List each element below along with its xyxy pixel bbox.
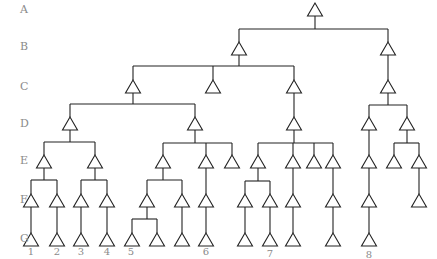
leaf-number-label: 5 bbox=[128, 247, 134, 257]
leaf-number-label: 6 bbox=[203, 247, 209, 257]
triangle-node-icon bbox=[37, 155, 52, 168]
triangle-node-icon bbox=[362, 194, 377, 207]
leaf-number-label: 1 bbox=[28, 247, 34, 257]
triangle-node-icon bbox=[74, 233, 89, 246]
triangle-node-icon bbox=[326, 194, 341, 207]
triangle-node-icon bbox=[263, 194, 278, 207]
level-label: F bbox=[20, 194, 28, 205]
tree-diagram bbox=[0, 0, 437, 259]
triangle-node-icon bbox=[126, 80, 141, 93]
triangle-node-icon bbox=[199, 233, 214, 246]
triangle-node-icon bbox=[225, 155, 240, 168]
triangle-node-icon bbox=[175, 233, 190, 246]
leaf-number-label: 7 bbox=[267, 249, 273, 259]
triangle-node-icon bbox=[387, 155, 402, 168]
triangle-node-icon bbox=[412, 155, 427, 168]
triangle-node-icon bbox=[326, 233, 341, 246]
triangle-node-icon bbox=[199, 155, 214, 168]
leaf-number-label: 2 bbox=[54, 247, 60, 257]
level-label: G bbox=[20, 233, 29, 244]
triangle-node-icon bbox=[251, 155, 266, 168]
triangle-node-icon bbox=[287, 117, 302, 130]
triangle-node-icon bbox=[286, 233, 301, 246]
triangle-node-icon bbox=[88, 155, 103, 168]
triangle-node-icon bbox=[263, 233, 278, 246]
triangle-node-icon bbox=[286, 155, 301, 168]
triangle-node-icon bbox=[125, 233, 140, 246]
triangle-node-icon bbox=[362, 155, 377, 168]
leaf-number-label: 4 bbox=[104, 247, 110, 257]
triangle-node-icon bbox=[150, 233, 165, 246]
triangle-node-icon bbox=[362, 117, 377, 130]
triangle-node-icon bbox=[175, 194, 190, 207]
triangle-node-icon bbox=[199, 194, 214, 207]
tree-nodes bbox=[24, 3, 427, 246]
triangle-node-icon bbox=[50, 194, 65, 207]
triangle-node-icon bbox=[206, 80, 221, 93]
triangle-node-icon bbox=[140, 194, 155, 207]
leaf-number-label: 8 bbox=[366, 250, 372, 259]
triangle-node-icon bbox=[238, 194, 253, 207]
triangle-node-icon bbox=[100, 233, 115, 246]
level-label: B bbox=[20, 41, 28, 52]
triangle-node-icon bbox=[400, 117, 415, 130]
triangle-node-icon bbox=[381, 80, 396, 93]
triangle-node-icon bbox=[50, 233, 65, 246]
leaf-number-label: 3 bbox=[78, 247, 84, 257]
triangle-node-icon bbox=[232, 42, 247, 55]
triangle-node-icon bbox=[188, 117, 203, 130]
triangle-node-icon bbox=[287, 80, 302, 93]
level-label: D bbox=[20, 118, 29, 129]
triangle-node-icon bbox=[412, 194, 427, 207]
triangle-node-icon bbox=[381, 42, 396, 55]
triangle-node-icon bbox=[326, 155, 341, 168]
triangle-node-icon bbox=[74, 194, 89, 207]
level-label: E bbox=[20, 155, 28, 166]
triangle-node-icon bbox=[308, 3, 323, 16]
triangle-node-icon bbox=[286, 194, 301, 207]
level-label: C bbox=[20, 81, 28, 92]
triangle-node-icon bbox=[63, 117, 78, 130]
triangle-node-icon bbox=[100, 194, 115, 207]
triangle-node-icon bbox=[362, 233, 377, 246]
tree-edges bbox=[31, 16, 419, 233]
triangle-node-icon bbox=[238, 233, 253, 246]
triangle-node-icon bbox=[307, 155, 322, 168]
level-label: A bbox=[20, 4, 28, 15]
triangle-node-icon bbox=[156, 155, 171, 168]
